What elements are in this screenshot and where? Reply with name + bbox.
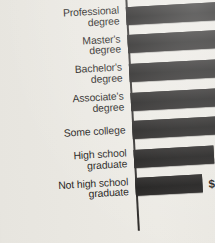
bar <box>130 87 215 111</box>
scanned-page: degree Professional degree Master's degr… <box>0 0 215 243</box>
bar <box>135 175 203 197</box>
bar <box>127 28 215 54</box>
category-label: Bachelor's degree <box>7 63 130 91</box>
bar <box>129 56 215 82</box>
bar <box>133 145 214 167</box>
bar-value-label: $1.0 <box>208 176 215 190</box>
category-label: High school graduate <box>12 148 135 176</box>
category-label: Associate's degree <box>8 91 131 119</box>
bar <box>126 0 215 25</box>
category-label: Master's degree <box>5 34 128 62</box>
bar-chart: degree Professional degree Master's degr… <box>2 0 215 241</box>
bar <box>132 116 215 139</box>
category-label: Professional degree <box>4 5 127 33</box>
category-label: Some college <box>10 125 132 142</box>
category-label: Not high school graduate <box>13 177 136 205</box>
